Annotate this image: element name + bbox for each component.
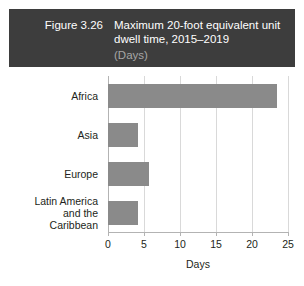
category-label: Latin America and the Caribbean	[34, 195, 98, 231]
category-label: Africa	[71, 90, 98, 102]
x-tick-label: 10	[174, 238, 186, 250]
x-axis-line	[108, 232, 288, 233]
bar	[108, 84, 277, 108]
x-tick-label: 15	[210, 238, 222, 250]
figure-unit-label: (Days)	[114, 48, 287, 62]
x-tick-20	[252, 232, 253, 236]
bar	[108, 201, 138, 225]
x-tick-label: 5	[141, 238, 147, 250]
bar	[108, 162, 149, 186]
x-axis-title: Days	[108, 258, 288, 270]
bar	[108, 123, 138, 147]
x-tick-label: 0	[105, 238, 111, 250]
x-tick-5	[144, 232, 145, 236]
figure-header: Figure 3.26 Maximum 20-foot equivalent u…	[9, 9, 295, 67]
x-tick-0	[108, 232, 109, 236]
gridline-25	[288, 76, 289, 232]
figure-title: Maximum 20-foot equivalent unit dwell ti…	[114, 18, 286, 46]
category-label: Europe	[64, 168, 98, 180]
x-tick-label: 20	[246, 238, 258, 250]
category-label: Asia	[78, 129, 98, 141]
figure-title-block: Maximum 20-foot equivalent unit dwell ti…	[113, 18, 287, 62]
x-tick-label: 25	[282, 238, 294, 250]
x-tick-10	[180, 232, 181, 236]
chart-plot-area: AfricaAsiaEuropeLatin America and the Ca…	[0, 76, 304, 286]
category-axis-labels: AfricaAsiaEuropeLatin America and the Ca…	[0, 76, 104, 232]
bars-and-gridlines	[108, 76, 288, 232]
figure-number: Figure 3.26	[9, 18, 113, 32]
x-tick-25	[288, 232, 289, 236]
x-tick-15	[216, 232, 217, 236]
figure-container: Figure 3.26 Maximum 20-foot equivalent u…	[0, 0, 304, 286]
